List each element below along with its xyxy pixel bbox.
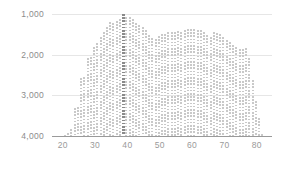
bar bbox=[222, 37, 224, 136]
bar bbox=[190, 29, 192, 136]
x-axis-line bbox=[52, 136, 272, 137]
bar bbox=[226, 40, 228, 136]
bar bbox=[70, 129, 72, 136]
x-tick-label: 60 bbox=[187, 140, 197, 150]
bar bbox=[67, 133, 69, 136]
bar bbox=[171, 32, 173, 136]
y-tick-label: 3,000 bbox=[0, 90, 44, 100]
bar bbox=[203, 32, 205, 136]
plot-area bbox=[52, 14, 272, 136]
bar bbox=[206, 35, 208, 136]
bar bbox=[235, 47, 237, 136]
bar bbox=[252, 80, 254, 136]
bar bbox=[151, 38, 153, 136]
bar bbox=[164, 34, 166, 136]
bar bbox=[103, 32, 105, 136]
bar bbox=[258, 118, 260, 136]
bar bbox=[64, 135, 66, 136]
bar bbox=[93, 47, 95, 136]
bar bbox=[167, 32, 169, 136]
bar bbox=[138, 25, 140, 136]
bar bbox=[112, 23, 114, 136]
bar bbox=[158, 36, 160, 136]
bar bbox=[184, 30, 186, 136]
bar bbox=[239, 49, 241, 136]
x-tick-label: 70 bbox=[219, 140, 229, 150]
x-tick-label: 80 bbox=[252, 140, 262, 150]
bar bbox=[210, 37, 212, 136]
bar bbox=[197, 30, 199, 136]
bar bbox=[232, 45, 234, 137]
bar bbox=[180, 32, 182, 137]
bar bbox=[135, 23, 137, 136]
bar bbox=[142, 27, 144, 136]
bar bbox=[116, 21, 118, 136]
bar bbox=[242, 49, 244, 136]
bar bbox=[74, 108, 76, 136]
bar bbox=[77, 107, 79, 136]
bar bbox=[261, 134, 263, 136]
bar bbox=[187, 29, 189, 136]
bar bbox=[100, 37, 102, 136]
bar bbox=[148, 35, 150, 136]
bar bbox=[161, 34, 163, 136]
bar bbox=[145, 30, 147, 136]
x-tick-label: 40 bbox=[122, 140, 132, 150]
bar bbox=[245, 48, 247, 136]
bar bbox=[248, 58, 250, 136]
y-tick-label: 1,000 bbox=[0, 9, 44, 19]
bar bbox=[122, 14, 125, 136]
bar bbox=[255, 101, 257, 136]
x-tick-label: 30 bbox=[90, 140, 100, 150]
x-tick-label: 50 bbox=[155, 140, 165, 150]
y-tick-label: 2,000 bbox=[0, 50, 44, 60]
bar bbox=[129, 17, 131, 136]
bar bbox=[119, 19, 121, 136]
bar bbox=[229, 42, 231, 136]
bar bbox=[83, 77, 85, 136]
bar bbox=[90, 57, 92, 136]
bar bbox=[216, 33, 218, 136]
x-tick-label: 20 bbox=[58, 140, 68, 150]
bar bbox=[219, 34, 221, 136]
bar bbox=[200, 30, 202, 136]
bar bbox=[155, 39, 157, 136]
y-tick-label: 4,000 bbox=[0, 131, 44, 141]
bar-chart: 1,000 2,000 3,000 4,000 20 30 40 50 60 7… bbox=[0, 0, 287, 172]
bar bbox=[96, 43, 98, 136]
bar bbox=[193, 29, 195, 136]
gridline-1000 bbox=[52, 14, 272, 15]
bar bbox=[109, 22, 111, 136]
bar bbox=[125, 17, 127, 136]
bar bbox=[80, 78, 82, 136]
bar bbox=[132, 19, 134, 136]
bar bbox=[106, 27, 108, 136]
bar bbox=[174, 32, 176, 137]
bar bbox=[213, 32, 215, 136]
bar bbox=[87, 58, 89, 136]
bar bbox=[177, 31, 179, 136]
